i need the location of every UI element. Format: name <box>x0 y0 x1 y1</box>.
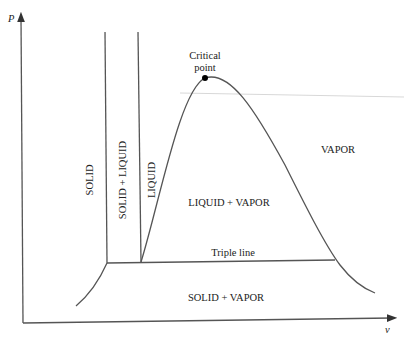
pv-diagram: P v Critical point SOLID SOLID + LIQUID … <box>0 0 404 343</box>
critical-point-label-line1: Critical <box>189 50 221 61</box>
liquid-boundary-line <box>138 32 141 262</box>
solid-boundary-line <box>105 32 107 263</box>
x-axis <box>23 318 392 323</box>
y-axis <box>21 17 23 323</box>
region-solid-label: SOLID <box>84 164 95 195</box>
scan-artifact-line <box>180 93 404 97</box>
region-liquid-vapor-label: LIQUID + VAPOR <box>188 197 269 208</box>
x-axis-label: v <box>385 324 390 335</box>
region-liquid-label: LIQUID <box>146 162 157 199</box>
critical-point-marker <box>202 75 208 81</box>
solid-vapor-curve <box>76 263 107 306</box>
region-solid-liquid-label: SOLID + LIQUID <box>117 140 128 219</box>
critical-point-label-line2: point <box>194 62 216 73</box>
region-vapor-label: VAPOR <box>321 144 355 155</box>
region-solid-vapor-label: SOLID + VAPOR <box>188 292 264 303</box>
triple-line-label: Triple line <box>211 247 255 258</box>
y-axis-label: P <box>7 13 15 24</box>
